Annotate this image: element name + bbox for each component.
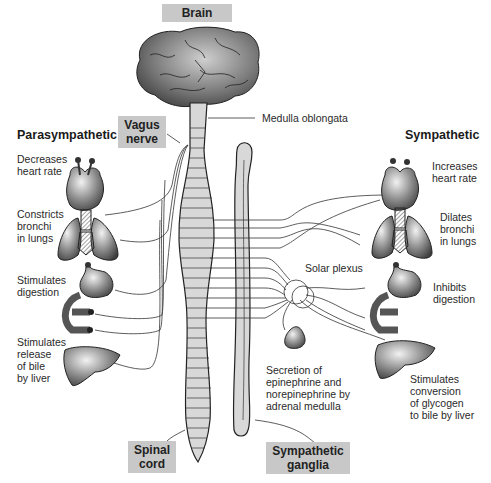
symp-lungs — [372, 208, 432, 258]
symp-liver-effect: Stimulates conversion of glycogen to bil… — [410, 373, 474, 421]
sympathetic-ganglia-chain — [233, 143, 252, 436]
spinal-cord — [179, 103, 214, 462]
sympathetic-ganglia-label: Sympathetic ganglia — [266, 442, 350, 474]
para-liver — [64, 347, 120, 386]
brain-label: Brain — [162, 4, 232, 22]
vagus-nerve-label: Vagus nerve — [118, 116, 166, 148]
para-lungs — [58, 210, 118, 260]
symp-heart — [382, 158, 419, 210]
brain — [137, 27, 259, 106]
parasympathetic-heading: Parasympathetic — [17, 128, 117, 142]
symp-stomach-effect: Inhibits digestion — [433, 281, 475, 305]
para-liver-effect: Stimulates release of bile by liver — [17, 336, 66, 384]
para-stomach-effect: Stimulates digestion — [17, 274, 66, 298]
adrenal-gland — [285, 327, 305, 349]
para-stomach — [65, 262, 113, 333]
sympathetic-heading: Sympathetic — [405, 128, 479, 142]
symp-heart-effect: Increases heart rate — [432, 160, 478, 184]
adrenal-effect: Secretion of epinephrine and norepinephr… — [266, 364, 350, 412]
solar-plexus-label: Solar plexus — [305, 262, 363, 274]
para-heart — [67, 157, 104, 210]
symp-lungs-effect: Dilates bronchi in lungs — [440, 211, 476, 247]
medulla-label: Medulla oblongata — [262, 112, 348, 124]
para-lungs-effect: Constricts bronchi in lungs — [17, 208, 64, 244]
para-heart-effect: Decreases heart rate — [17, 153, 67, 177]
spinal-cord-label: Spinal cord — [128, 441, 176, 473]
symp-stomach — [373, 262, 421, 330]
